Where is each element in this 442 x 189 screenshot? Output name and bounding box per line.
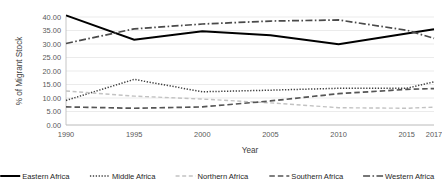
y-tick-label: 25.00 — [43, 53, 62, 62]
x-tick-label: 2015 — [399, 130, 415, 139]
x-tick-label: 2000 — [194, 130, 210, 139]
x-tick-label: 1995 — [126, 130, 142, 139]
y-tick-label: 5.00 — [47, 107, 61, 116]
legend-label-middle-africa: Middle Africa — [112, 172, 156, 181]
x-tick-label: 2005 — [262, 130, 278, 139]
x-axis-title: Year — [242, 146, 259, 155]
y-tick-label: 15.00 — [43, 80, 62, 89]
chart-legend: Eastern AfricaMiddle AfricaNorthern Afri… — [0, 172, 435, 181]
y-tick-label: 20.00 — [43, 67, 62, 76]
chart-figure: 0.005.0010.0015.0020.0025.0030.0035.0040… — [0, 0, 442, 189]
line-chart: 0.005.0010.0015.0020.0025.0030.0035.0040… — [0, 0, 442, 189]
series-line-middle-africa — [66, 79, 434, 100]
y-tick-label: 0.00 — [47, 121, 61, 130]
y-tick-labels: 0.005.0010.0015.0020.0025.0030.0035.0040… — [43, 13, 62, 130]
series-line-northern-africa — [66, 91, 434, 108]
legend-label-northern-africa: Northern Africa — [198, 172, 249, 181]
series-lines — [66, 15, 434, 108]
y-tick-label: 40.00 — [43, 13, 62, 22]
x-tick-label: 2010 — [330, 130, 346, 139]
y-axis-title: % of Migrant Stock — [15, 36, 24, 106]
series-line-western-africa — [66, 20, 434, 43]
series-line-southern-africa — [66, 89, 434, 109]
legend-label-western-africa: Western Africa — [385, 172, 435, 181]
y-tick-label: 35.00 — [43, 26, 62, 35]
x-tick-labels: 1990199520002005201020152017 — [58, 130, 442, 139]
legend-label-southern-africa: Southern Africa — [291, 172, 344, 181]
y-tick-label: 10.00 — [43, 94, 62, 103]
series-line-eastern-africa — [66, 15, 434, 44]
x-tick-label: 1990 — [58, 130, 74, 139]
legend-label-eastern-africa: Eastern Africa — [22, 172, 70, 181]
y-tick-label: 30.00 — [43, 40, 62, 49]
x-tick-label: 2017 — [426, 130, 442, 139]
